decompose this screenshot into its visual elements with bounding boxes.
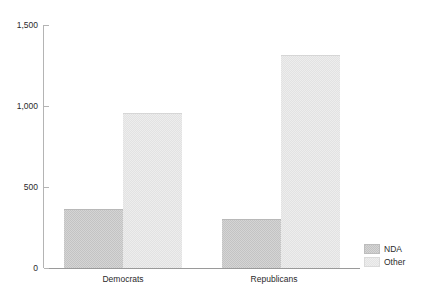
bar-republicans-nda[interactable]	[222, 219, 281, 268]
legend-label-nda: NDA	[384, 245, 402, 254]
bar-republicans-other[interactable]	[281, 55, 340, 268]
plot-area	[44, 25, 360, 268]
x-category-label-republicans: Republicans	[209, 274, 339, 284]
legend-swatch-nda-icon	[364, 244, 380, 254]
legend-item-nda[interactable]: NDA	[364, 243, 422, 255]
bar-democrats-nda[interactable]	[64, 209, 123, 268]
x-axis-line	[44, 268, 360, 269]
bar-democrats-other[interactable]	[123, 113, 182, 268]
legend-item-other[interactable]: Other	[364, 256, 422, 268]
legend-swatch-other-icon	[364, 257, 380, 267]
legend: NDA Other	[364, 243, 422, 269]
x-category-label-democrats: Democrats	[58, 274, 188, 284]
bar-chart: 1,500 1,000 500 0 Democrats Republicans …	[0, 0, 424, 295]
legend-label-other: Other	[384, 258, 405, 267]
y-tick-mark-0	[44, 268, 49, 269]
